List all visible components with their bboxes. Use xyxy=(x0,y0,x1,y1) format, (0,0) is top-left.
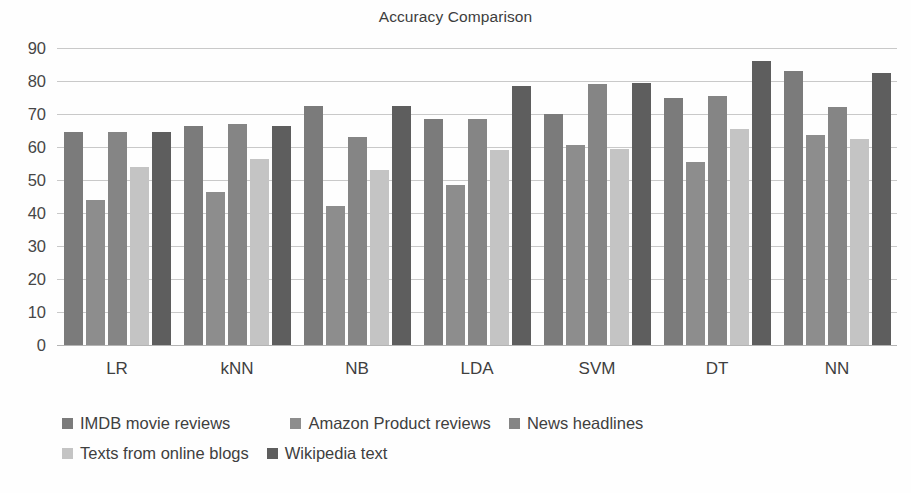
bar[interactable] xyxy=(784,71,803,345)
legend-row-2: Texts from online blogsWikipedia text xyxy=(62,438,862,468)
bar[interactable] xyxy=(872,73,891,345)
x-axis-category-label: NB xyxy=(297,352,417,386)
y-axis-tick-label: 70 xyxy=(28,106,46,123)
bar[interactable] xyxy=(806,135,825,345)
bar[interactable] xyxy=(152,132,171,345)
bar[interactable] xyxy=(610,149,629,345)
bar[interactable] xyxy=(130,167,149,345)
x-axis-category-label: NN xyxy=(777,352,897,386)
y-axis-tick-label: 60 xyxy=(28,139,46,156)
legend-row-1: IMDB movie reviewsAmazon Product reviews… xyxy=(62,408,862,438)
x-axis-category-label: LR xyxy=(57,352,177,386)
bar-group xyxy=(417,48,537,345)
bar-group xyxy=(177,48,297,345)
legend-swatch-icon xyxy=(290,418,301,429)
y-axis-tick-label: 30 xyxy=(28,238,46,255)
legend-label: Wikipedia text xyxy=(285,445,388,462)
bar[interactable] xyxy=(544,114,563,345)
bar-group xyxy=(777,48,897,345)
bar[interactable] xyxy=(490,150,509,345)
axis-baseline xyxy=(57,345,897,346)
y-axis: 0102030405060708090 xyxy=(0,40,54,345)
bar-group xyxy=(297,48,417,345)
legend-item[interactable]: Wikipedia text xyxy=(267,445,388,462)
bar[interactable] xyxy=(370,170,389,345)
legend-item[interactable]: Amazon Product reviews xyxy=(290,415,491,432)
y-axis-tick-label: 90 xyxy=(28,40,46,57)
bar[interactable] xyxy=(664,98,683,346)
bar[interactable] xyxy=(468,119,487,345)
bar[interactable] xyxy=(828,107,847,345)
bar[interactable] xyxy=(708,96,727,345)
bar[interactable] xyxy=(632,83,651,345)
legend-swatch-icon xyxy=(62,418,73,429)
legend-label: IMDB movie reviews xyxy=(80,415,230,432)
bar[interactable] xyxy=(446,185,465,345)
x-axis: LRkNNNBLDASVMDTNN xyxy=(57,352,897,386)
bar[interactable] xyxy=(424,119,443,345)
chart-legend: IMDB movie reviewsAmazon Product reviews… xyxy=(62,408,862,468)
legend-swatch-icon xyxy=(267,448,278,459)
bar[interactable] xyxy=(206,192,225,345)
bar[interactable] xyxy=(348,137,367,345)
bar[interactable] xyxy=(566,145,585,345)
bar-group xyxy=(537,48,657,345)
legend-item[interactable]: News headlines xyxy=(509,415,643,432)
bar-groups xyxy=(57,48,897,345)
x-axis-category-label: kNN xyxy=(177,352,297,386)
bar[interactable] xyxy=(588,84,607,345)
accuracy-comparison-chart: Accuracy Comparison 0102030405060708090 … xyxy=(0,0,911,493)
legend-item[interactable]: Texts from online blogs xyxy=(62,445,249,462)
legend-label: Texts from online blogs xyxy=(80,445,249,462)
y-axis-tick-label: 80 xyxy=(28,73,46,90)
bar[interactable] xyxy=(86,200,105,345)
bar[interactable] xyxy=(272,126,291,345)
bar[interactable] xyxy=(512,86,531,345)
bar[interactable] xyxy=(108,132,127,345)
legend-swatch-icon xyxy=(509,418,520,429)
bar[interactable] xyxy=(752,61,771,345)
bar[interactable] xyxy=(730,129,749,345)
bar-group xyxy=(57,48,177,345)
legend-item[interactable]: IMDB movie reviews xyxy=(62,415,230,432)
y-axis-tick-label: 10 xyxy=(28,304,46,321)
plot-wrapper: 0102030405060708090 xyxy=(0,40,911,352)
bar[interactable] xyxy=(228,124,247,345)
x-axis-category-label: DT xyxy=(657,352,777,386)
y-axis-tick-label: 50 xyxy=(28,172,46,189)
legend-label: News headlines xyxy=(527,415,643,432)
bar[interactable] xyxy=(686,162,705,345)
bar[interactable] xyxy=(850,139,869,345)
y-axis-tick-label: 0 xyxy=(37,337,46,354)
bar[interactable] xyxy=(184,126,203,345)
legend-label: Amazon Product reviews xyxy=(308,415,491,432)
y-axis-tick-label: 40 xyxy=(28,205,46,222)
y-axis-tick-label: 20 xyxy=(28,271,46,288)
x-axis-category-label: SVM xyxy=(537,352,657,386)
bar-group xyxy=(657,48,777,345)
bar[interactable] xyxy=(250,159,269,345)
bar[interactable] xyxy=(304,106,323,345)
bar[interactable] xyxy=(392,106,411,345)
legend-swatch-icon xyxy=(62,448,73,459)
plot-area xyxy=(57,48,897,345)
bar[interactable] xyxy=(64,132,83,345)
x-axis-category-label: LDA xyxy=(417,352,537,386)
bar[interactable] xyxy=(326,206,345,345)
chart-title: Accuracy Comparison xyxy=(0,8,911,26)
